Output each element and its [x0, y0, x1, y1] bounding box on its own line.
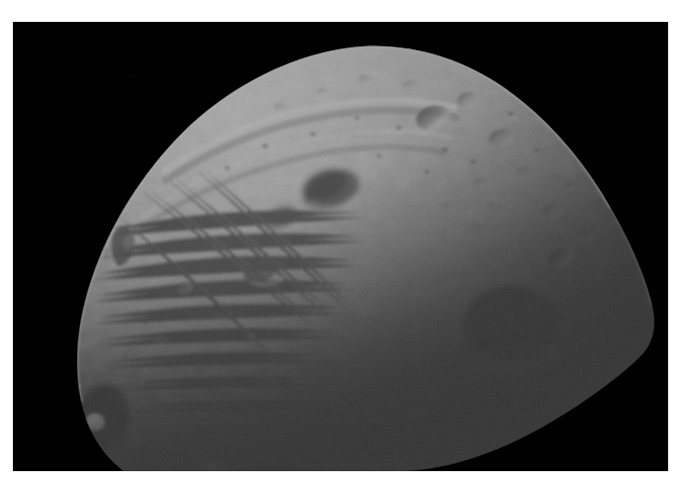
phobos-surface [13, 22, 668, 471]
phobos-render [13, 22, 668, 471]
image-caption: Phobos, the larger moon of Mars, photogr… [0, 0, 1, 1]
phobos-body [13, 22, 668, 471]
image-grain [13, 22, 668, 471]
page-canvas: Phobos, the larger moon of Mars, photogr… [0, 0, 691, 499]
photograph-plate [13, 22, 668, 471]
